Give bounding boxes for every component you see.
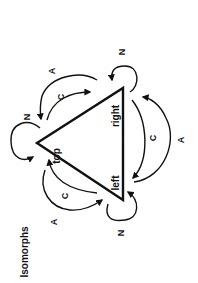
edge-label-left-top-c: C [60, 192, 70, 199]
isomorphs-diagram: top right left N N N C A C A C A Isomorp… [0, 0, 198, 283]
edge-label-left-n: N [116, 230, 126, 237]
edge-label-top-right-c: C [56, 93, 66, 100]
edge-label-right-top-a: A [47, 67, 57, 74]
self-loop-right [112, 66, 137, 92]
edge-top-to-right-c [47, 92, 90, 120]
edge-label-left-right-a: A [176, 136, 186, 143]
edge-top-to-left-a [43, 170, 102, 210]
edge-label-right-n: N [117, 49, 127, 56]
edge-label-right-left-c: C [148, 134, 158, 141]
diagram-title: Isomorphs [19, 226, 30, 278]
node-label-right: right [110, 104, 121, 127]
edge-right-to-top-a [40, 75, 97, 119]
node-label-top: top [51, 148, 62, 164]
edge-label-top-left-a: A [49, 218, 59, 225]
edge-right-to-left-c [132, 100, 145, 178]
edge-left-to-top-c [49, 160, 97, 193]
node-label-left: left [110, 175, 121, 191]
self-loop-top [11, 123, 40, 160]
edge-label-top-n: N [22, 114, 32, 121]
